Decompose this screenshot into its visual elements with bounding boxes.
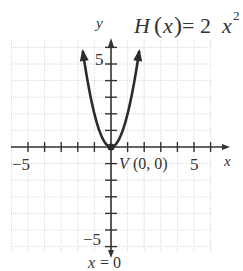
function-eq: = 2 (182, 13, 211, 38)
y-axis-arrow-up-icon (108, 38, 114, 47)
x-tick-label-5: 5 (190, 155, 199, 174)
function-paren-open: ( (154, 12, 162, 38)
x-axis (11, 144, 230, 150)
function-exponent: 2 (233, 8, 240, 23)
y-tick-label-5: 5 (95, 50, 104, 69)
vertex-label: V (0, 0) (119, 155, 168, 173)
curve-arrow-right-icon (133, 49, 142, 62)
function-paren-close: ) (174, 12, 182, 38)
function-arg: x (162, 13, 173, 38)
symmetry-x: x (87, 254, 95, 271)
function-label: H ( x ) = 2 x 2 (133, 8, 240, 38)
function-var: x (221, 13, 232, 38)
symmetry-label: x = 0 (87, 254, 121, 271)
curve-arrow-left-icon (80, 49, 89, 62)
symmetry-eq: = 0 (96, 254, 121, 271)
y-axis-label: y (94, 15, 103, 31)
function-name: H (133, 13, 151, 38)
y-tick-label-neg5: −5 (83, 230, 101, 249)
graph: y x H ( x ) = 2 x 2 −5 5 5 −5 V (0, 0) x… (0, 0, 243, 271)
vertex-point (107, 143, 114, 150)
x-axis-arrow-icon (222, 144, 230, 150)
x-tick-label-neg5: −5 (12, 155, 30, 174)
x-axis-label: x (223, 153, 231, 169)
vertex-coords: (0, 0) (133, 155, 168, 173)
